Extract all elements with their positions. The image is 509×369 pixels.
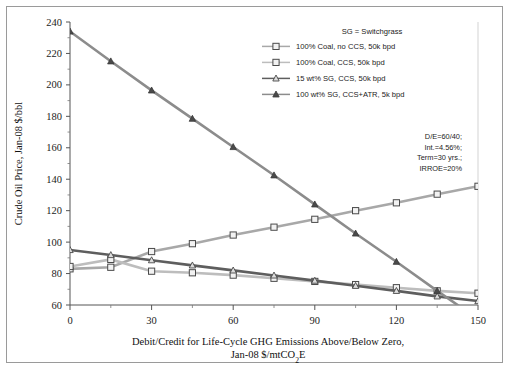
legend-label-3: 100 wt% SG, CCS+ATR, 5k bpd [296, 90, 405, 99]
x-tick-label: 150 [470, 315, 486, 326]
y-tick-label: 80 [52, 268, 63, 279]
y-tick-label: 100 [46, 237, 62, 248]
x-axis-title-line2: Jan-08 $/mtCO2E [231, 349, 306, 365]
data-marker [149, 268, 155, 274]
data-marker [189, 270, 195, 276]
finance-note-line-1: Int.=4.56%; [424, 143, 462, 152]
data-marker [273, 59, 279, 65]
x-tick-label: 120 [389, 315, 405, 326]
x-axis-title: Debit/Credit for Life-Cycle GHG Emission… [132, 336, 404, 347]
legend-note-switchgrass: SG = Switchgrass [342, 27, 403, 36]
y-tick-label: 140 [46, 174, 62, 185]
x-tick-label: 0 [67, 315, 72, 326]
data-marker [434, 191, 440, 197]
chart-figure: 6080100120140160180200220240030609012015… [0, 0, 509, 369]
data-marker [312, 216, 318, 222]
y-tick-label: 180 [46, 111, 62, 122]
y-tick-label: 220 [46, 48, 62, 59]
data-marker [67, 28, 73, 34]
y-tick-label: 200 [46, 79, 62, 90]
data-marker [271, 224, 277, 230]
y-tick-label: 120 [46, 205, 62, 216]
data-marker [475, 290, 481, 296]
legend-label-1: 100% Coal, CCS, 50k bpd [296, 58, 385, 67]
data-marker [108, 264, 114, 270]
data-marker [189, 241, 195, 247]
legend-label-0: 100% Coal, no CCS, 50k bpd [296, 42, 395, 51]
data-marker [353, 208, 359, 214]
data-marker [393, 200, 399, 206]
legend-marker-1 [273, 59, 279, 65]
data-marker [149, 248, 155, 254]
data-marker [475, 183, 481, 189]
legend-marker-0 [273, 43, 279, 49]
y-tick-label: 240 [46, 17, 62, 28]
y-tick-label: 160 [46, 142, 62, 153]
x-tick-label: 60 [228, 315, 239, 326]
y-axis-title: Crude Oil Price, Jan-08 $/bbl [13, 102, 24, 225]
legend-label-2: 15 wt% SG, CCS, 50k bpd [296, 74, 385, 83]
finance-note-line-2: Term=30 yrs.; [417, 153, 462, 162]
y-tick-label: 60 [52, 300, 63, 311]
finance-note-line-0: D/E=60/40; [425, 132, 462, 141]
x-tick-label: 90 [310, 315, 321, 326]
chart-canvas: 6080100120140160180200220240030609012015… [0, 0, 509, 369]
series-2 [67, 247, 481, 304]
data-marker [230, 232, 236, 238]
x-tick-label: 30 [146, 315, 157, 326]
data-marker [273, 43, 279, 49]
data-marker [67, 263, 73, 269]
finance-note-line-3: IRROE=20% [419, 164, 462, 173]
